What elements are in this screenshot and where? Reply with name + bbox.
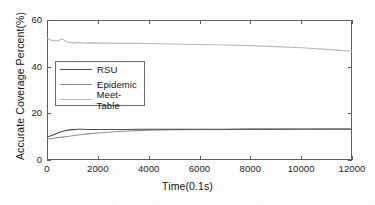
y-tick-right [348, 67, 352, 68]
x-tick-top [352, 20, 353, 24]
x-tick [250, 156, 251, 160]
x-tick [301, 156, 302, 160]
x-tick-top [301, 20, 302, 24]
y-tick-right [348, 160, 352, 161]
y-tick-right [348, 20, 352, 21]
x-tick [98, 156, 99, 160]
y-tick [47, 67, 51, 68]
legend-label-rsu: RSU [97, 64, 117, 75]
x-tick-top [149, 20, 150, 24]
legend-item-rsu: RSU [56, 62, 144, 77]
y-axis-title: Accurate Coverage Percent(%) [14, 12, 26, 160]
legend-label-meet-table: Meet-Table [97, 89, 144, 111]
y-tick-right [348, 113, 352, 114]
x-tick-top [98, 20, 99, 24]
series-meet-table [47, 38, 352, 51]
legend-item-meet-table: Meet-Table [56, 92, 144, 107]
x-axis-title: Time(0.1s) [0, 180, 375, 192]
x-tick [352, 156, 353, 160]
chart-figure: 020004000600080001000012000 0204060 RSU … [0, 0, 375, 205]
legend-swatch-rsu [60, 69, 92, 70]
x-tick-top [250, 20, 251, 24]
y-tick [47, 113, 51, 114]
y-tick [47, 160, 51, 161]
y-tick [47, 20, 51, 21]
legend-swatch-meet-table [60, 99, 92, 100]
x-tick-label: 12000 [322, 163, 375, 174]
series-rsu [47, 129, 352, 137]
x-tick [200, 156, 201, 160]
series-epidemic [47, 129, 352, 139]
chart-legend[interactable]: RSU Epidemic Meet-Table [55, 61, 145, 106]
x-tick-top [200, 20, 201, 24]
x-tick [149, 156, 150, 160]
legend-swatch-epidemic [60, 84, 92, 85]
